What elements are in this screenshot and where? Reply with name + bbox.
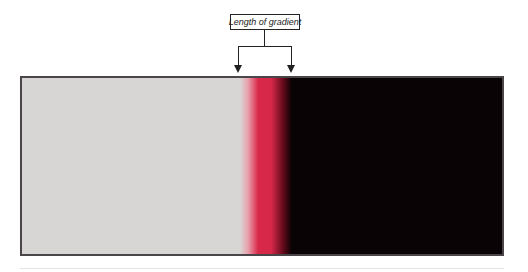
arrow-down-icon-end bbox=[287, 65, 295, 73]
label-stem bbox=[264, 30, 265, 46]
gradient-length-label-text: Length of gradient bbox=[229, 17, 302, 27]
bracket-right-leg bbox=[291, 46, 292, 66]
gradient-length-label: Length of gradient bbox=[230, 14, 300, 30]
arrow-down-icon-start bbox=[234, 65, 242, 73]
bottom-divider bbox=[20, 268, 504, 269]
bracket-left-leg bbox=[238, 46, 239, 66]
gradient-panel bbox=[20, 76, 504, 256]
bracket-horizontal bbox=[238, 46, 292, 47]
